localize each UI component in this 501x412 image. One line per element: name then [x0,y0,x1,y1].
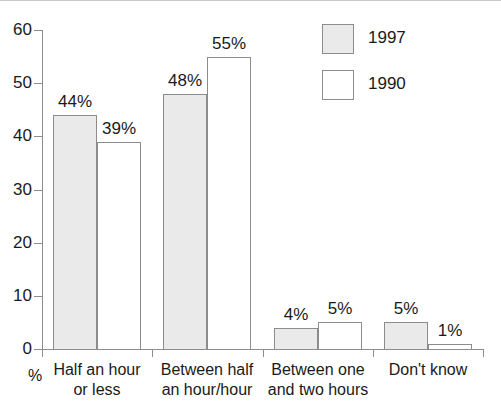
bar-value-label: 5% [310,300,370,317]
legend-swatch-1997-icon [322,24,354,54]
y-tick-mark [34,30,42,31]
bar-1997-group-1 [53,115,97,350]
bar-value-label: 39% [89,120,149,137]
y-axis-line [42,30,43,349]
bar-1990-group-4 [428,344,472,350]
bar-1990-group-3 [318,322,362,350]
x-category-label: Don't know [361,360,495,380]
bar-1990-group-2 [207,57,251,350]
x-tick-mark [373,349,374,357]
x-category-label-line: and two hours [251,380,385,400]
y-tick-mark [34,83,42,84]
x-tick-mark [483,349,484,357]
y-tick-label: 30 [2,181,32,198]
bar-value-label: 48% [155,72,215,89]
bar-1997-group-3 [274,328,318,350]
y-tick-mark [34,243,42,244]
y-tick-label: 40 [2,127,32,144]
x-tick-mark [42,349,43,357]
y-axis-unit-label: % [28,368,42,384]
bar-chart: 0102030405060 44%39%48%55%4%5%5%1% Half … [0,0,501,412]
y-tick-mark [34,349,42,350]
y-tick-label: 50 [2,74,32,91]
y-tick-mark [34,296,42,297]
scan-top-rule [0,0,501,1]
bar-value-label: 1% [420,322,480,339]
y-tick-mark [34,136,42,137]
legend-swatch-1990-icon [322,70,354,100]
bar-1997-group-2 [163,94,207,350]
y-tick-mark [34,190,42,191]
bar-value-label: 44% [45,93,105,110]
legend-label-1990: 1990 [368,75,406,92]
bar-1990-group-1 [97,142,141,350]
x-tick-mark [263,349,264,357]
y-tick-label: 0 [2,340,32,357]
y-tick-label: 60 [2,21,32,38]
x-tick-mark [152,349,153,357]
bar-value-label: 5% [376,300,436,317]
x-category-label-line: Don't know [361,360,495,380]
y-tick-label: 10 [2,287,32,304]
bar-value-label: 55% [199,35,259,52]
y-tick-label: 20 [2,234,32,251]
legend-label-1997: 1997 [368,29,406,46]
